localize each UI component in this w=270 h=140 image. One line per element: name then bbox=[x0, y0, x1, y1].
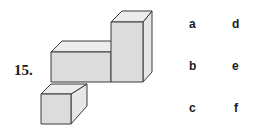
option-b[interactable]: b bbox=[189, 59, 196, 73]
tall-box-front bbox=[111, 22, 143, 82]
option-c[interactable]: c bbox=[189, 101, 196, 115]
bar-front bbox=[51, 52, 111, 82]
block-figure bbox=[0, 0, 270, 140]
tall-box-side bbox=[143, 11, 152, 82]
option-f[interactable]: f bbox=[234, 101, 238, 115]
option-e[interactable]: e bbox=[232, 59, 239, 73]
option-d[interactable]: d bbox=[232, 17, 239, 31]
option-a[interactable]: a bbox=[189, 17, 196, 31]
bar-top bbox=[51, 41, 112, 52]
small-cube-front bbox=[41, 94, 71, 124]
